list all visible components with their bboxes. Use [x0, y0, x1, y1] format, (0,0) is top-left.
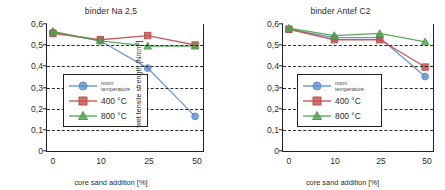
data-point-marker [192, 113, 199, 120]
gridline [283, 130, 433, 131]
y-axis-tick-mark [279, 44, 283, 45]
chart-title-right: binder Antef C2 [222, 6, 445, 16]
figure-two-panel-line-charts: binder Na 2,5 wet tensile strength [N/cm… [0, 0, 445, 190]
gridline [47, 45, 203, 46]
gridline [47, 66, 203, 67]
y-axis-tick-mark [43, 108, 47, 109]
legend-marker-square-icon [68, 94, 98, 108]
y-axis-tick-label: 0,3 [267, 83, 279, 93]
x-axis-tick-label: 10 [330, 156, 340, 166]
legend-marker-triangle-icon [68, 109, 98, 123]
gridline [283, 24, 433, 25]
plot-area-left: 00,10,20,30,40,50,60102550roomtemperatur… [46, 24, 204, 152]
legend-label: 400 °C [101, 96, 127, 106]
y-axis-tick-label: 0,5 [31, 40, 43, 50]
legend-item[interactable]: roomtemperature [302, 78, 375, 93]
data-point-marker [377, 37, 383, 43]
legend-item[interactable]: 800 °C [302, 108, 375, 123]
legend-marker-square-icon [302, 94, 332, 108]
x-axis-tick-label: 0 [51, 156, 56, 166]
y-axis-tick-mark [43, 66, 47, 67]
x-axis-tick-label: 10 [96, 156, 106, 166]
y-axis-tick-mark [279, 87, 283, 88]
y-axis-tick-label: 0,4 [31, 61, 43, 71]
series-line [53, 31, 195, 46]
y-axis-label-right: wet tensile strength [N/cm²] [134, 24, 146, 144]
y-axis-tick-mark [43, 44, 47, 45]
y-axis-tick-label: 0,6 [31, 19, 43, 29]
legend-label: 800 °C [335, 111, 361, 121]
y-axis-tick-mark [43, 87, 47, 88]
legend-marker-circle-icon [68, 79, 98, 93]
gridline [47, 130, 203, 131]
gridline [283, 66, 433, 67]
y-axis-tick-mark [279, 150, 283, 151]
legend-marker-triangle-icon [302, 109, 332, 123]
legend-label: roomtemperature [335, 80, 375, 92]
y-axis-tick-label: 0,1 [267, 125, 279, 135]
y-axis-tick-label: 0,5 [267, 40, 279, 50]
x-axis-label-left: core sand addition [%] [0, 178, 222, 187]
legend-item[interactable]: 800 °C [68, 108, 141, 123]
legend-item[interactable]: roomtemperature [68, 78, 141, 93]
chart-legend: roomtemperature400 °C800 °C [297, 74, 382, 127]
x-axis-tick-label: 50 [422, 156, 432, 166]
y-axis-tick-mark [43, 23, 47, 24]
legend-marker-circle-icon [302, 79, 332, 93]
y-axis-tick-mark [43, 150, 47, 151]
chart-panel-binder-antef: binder Antef C2 wet tensile strength [N/… [222, 0, 445, 190]
series-line [289, 29, 425, 76]
y-axis-tick-mark [43, 129, 47, 130]
chart-title-left: binder Na 2,5 [0, 6, 222, 16]
y-axis-tick-label: 0,6 [267, 19, 279, 29]
y-axis-tick-mark [279, 108, 283, 109]
data-point-marker [422, 73, 429, 80]
y-axis-tick-mark [279, 23, 283, 24]
legend-label: 800 °C [101, 111, 127, 121]
gridline [283, 45, 433, 46]
y-axis-tick-label: 0,4 [267, 61, 279, 71]
y-axis-tick-label: 0,2 [267, 104, 279, 114]
plot-area-right: 00,10,20,30,40,50,60102550roomtemperatur… [282, 24, 434, 152]
y-axis-tick-label: 0,1 [31, 125, 43, 135]
x-axis-tick-label: 25 [376, 156, 386, 166]
gridline [47, 24, 203, 25]
y-axis-tick-label: 0,3 [31, 83, 43, 93]
y-axis-tick-label: 0,2 [31, 104, 43, 114]
y-axis-tick-mark [279, 129, 283, 130]
legend-item[interactable]: 400 °C [302, 93, 375, 108]
legend-item[interactable]: 400 °C [68, 93, 141, 108]
chart-panel-binder-na: binder Na 2,5 wet tensile strength [N/cm… [0, 0, 222, 190]
legend-label: 400 °C [335, 96, 361, 106]
x-axis-tick-label: 0 [287, 156, 292, 166]
legend-label-line2: temperature [335, 86, 364, 92]
x-axis-tick-label: 25 [144, 156, 154, 166]
x-axis-tick-label: 50 [192, 156, 202, 166]
y-axis-tick-mark [279, 66, 283, 67]
x-axis-label-right: core sand addition [%] [222, 178, 445, 187]
legend-label-line2: temperature [101, 86, 130, 92]
